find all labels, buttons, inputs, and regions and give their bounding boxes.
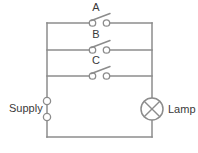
switch-branch-c: C	[47, 54, 152, 79]
switch-c-terminal-right	[103, 73, 109, 79]
supply-terminal-bottom[interactable]	[43, 113, 50, 120]
switch-b-label: B	[92, 28, 99, 40]
switch-branch-b: B	[47, 28, 152, 53]
circuit-schematic-svg: A B C	[0, 0, 198, 153]
switch-a-label: A	[92, 1, 100, 13]
switch-b-terminal-right	[103, 47, 109, 53]
supply-label: Supply	[9, 102, 43, 114]
switch-c-label: C	[92, 54, 100, 66]
switch-branch-a: A	[47, 1, 152, 26]
lamp-symbol	[141, 98, 163, 120]
switch-a-terminal-right	[103, 20, 109, 26]
supply-terminal-top[interactable]	[43, 97, 50, 104]
lamp-label: Lamp	[168, 103, 196, 115]
circuit-diagram: A B C	[0, 0, 198, 153]
